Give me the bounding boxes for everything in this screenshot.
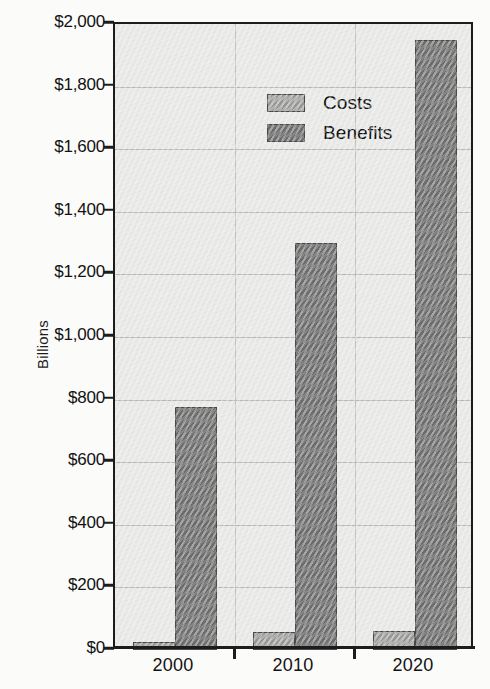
y-axis-tick-label: $400 bbox=[33, 513, 105, 533]
bar-chart: Billions $0$200$400$600$800$1,000$1,200$… bbox=[0, 0, 490, 689]
legend-item-benefits: Benefits bbox=[267, 118, 392, 148]
x-axis-line bbox=[113, 646, 475, 649]
legend-label-costs: Costs bbox=[323, 92, 372, 114]
y-axis-tick-label: $600 bbox=[33, 450, 105, 470]
legend-label-benefits: Benefits bbox=[323, 122, 392, 144]
vertical-gridline bbox=[235, 24, 236, 646]
y-axis-tick-label: $1,400 bbox=[33, 200, 105, 220]
y-axis-tick-label: $2,000 bbox=[33, 12, 105, 32]
legend-item-costs: Costs bbox=[267, 88, 392, 118]
y-axis-tick-label: $800 bbox=[33, 388, 105, 408]
y-axis-tick-label: $0 bbox=[33, 638, 105, 658]
y-axis-tick-label: $1,800 bbox=[33, 75, 105, 95]
legend: Costs Benefits bbox=[267, 88, 392, 148]
y-axis-tick-label: $1,000 bbox=[33, 325, 105, 345]
y-axis-tick-label: $1,200 bbox=[33, 262, 105, 282]
y-axis-tick-label: $1,600 bbox=[33, 137, 105, 157]
x-axis-tick-label-2020: 2020 bbox=[353, 655, 473, 676]
x-axis-tick-label-2010: 2010 bbox=[233, 655, 353, 676]
legend-swatch-costs-icon bbox=[267, 94, 305, 112]
plot-area: Costs Benefits bbox=[113, 22, 473, 648]
bar-benefits-2000 bbox=[175, 407, 217, 650]
bar-benefits-2010 bbox=[295, 243, 337, 650]
y-axis-tick-label: $200 bbox=[33, 575, 105, 595]
legend-swatch-benefits-icon bbox=[267, 124, 305, 142]
bar-benefits-2020 bbox=[415, 40, 457, 650]
x-axis-tick-label-2000: 2000 bbox=[113, 655, 233, 676]
